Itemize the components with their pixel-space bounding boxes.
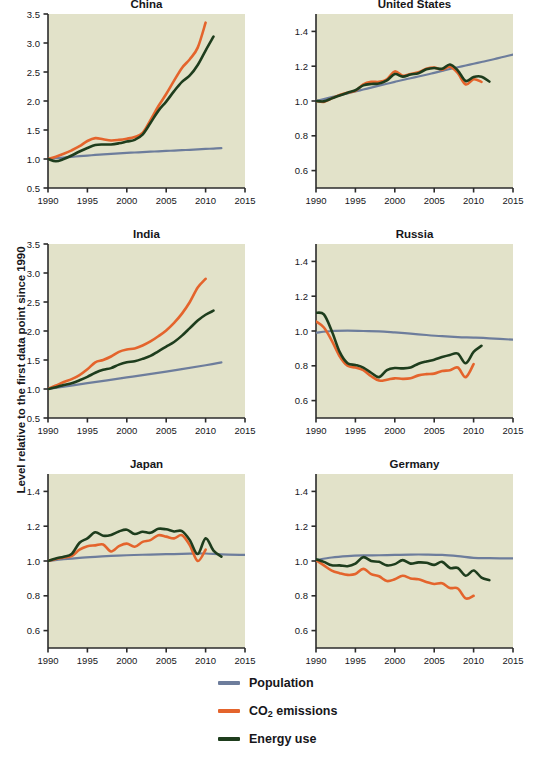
x-tick-label: 2000 xyxy=(116,655,137,666)
x-tick-label: 1995 xyxy=(345,195,366,206)
y-tick-label: 1.5 xyxy=(27,125,40,136)
legend-swatch-population-icon xyxy=(218,681,240,684)
panel-united-states: United States0.60.81.01.21.4199019952000… xyxy=(274,0,531,218)
plot-area-china: 0.51.01.52.02.53.03.51990199520002005201… xyxy=(6,0,263,218)
x-tick-label: 2015 xyxy=(502,195,523,206)
y-tick-label: 1.2 xyxy=(27,521,40,532)
panel-germany: Germany0.60.81.01.21.4199019952000200520… xyxy=(274,458,531,678)
panel-background xyxy=(48,14,245,188)
x-tick-label: 1995 xyxy=(77,195,98,206)
y-tick-label: 0.6 xyxy=(295,395,308,406)
plot-area-germany: 0.60.81.01.21.4199019952000200520102015 xyxy=(274,458,531,678)
y-tick-label: 1.2 xyxy=(295,291,308,302)
chart-legend: PopulationCO2 emissionsEnergy use xyxy=(0,676,538,762)
y-tick-label: 1.0 xyxy=(27,384,40,395)
x-tick-label: 2010 xyxy=(463,195,484,206)
y-tick-label: 1.4 xyxy=(27,486,40,497)
legend-label: Energy use xyxy=(249,732,316,746)
x-tick-label: 2000 xyxy=(116,425,137,436)
x-tick-label: 2015 xyxy=(234,655,255,666)
x-tick-label: 2005 xyxy=(424,425,445,436)
x-tick-label: 2000 xyxy=(384,655,405,666)
y-tick-label: 2.0 xyxy=(27,96,40,107)
x-tick-label: 2010 xyxy=(463,425,484,436)
x-tick-label: 2015 xyxy=(234,195,255,206)
y-tick-label: 1.5 xyxy=(27,355,40,366)
y-tick-label: 1.4 xyxy=(295,486,308,497)
y-tick-label: 1.2 xyxy=(295,521,308,532)
y-tick-label: 0.5 xyxy=(27,413,40,424)
y-tick-label: 0.8 xyxy=(295,130,308,141)
x-tick-label: 2000 xyxy=(384,195,405,206)
y-tick-label: 0.6 xyxy=(27,625,40,636)
y-tick-label: 1.0 xyxy=(295,556,308,567)
panel-background xyxy=(316,474,513,648)
x-tick-label: 2005 xyxy=(156,425,177,436)
panel-india: India0.51.01.52.02.53.03.519901995200020… xyxy=(6,228,263,448)
y-tick-label: 1.0 xyxy=(295,326,308,337)
y-tick-label: 0.8 xyxy=(295,360,308,371)
y-tick-label: 0.6 xyxy=(295,165,308,176)
legend-item-co2[interactable]: CO2 emissions xyxy=(218,704,337,718)
x-tick-label: 2000 xyxy=(116,195,137,206)
y-tick-label: 0.5 xyxy=(27,183,40,194)
panel-background xyxy=(48,244,245,418)
y-tick-label: 1.0 xyxy=(27,154,40,165)
x-tick-label: 1990 xyxy=(305,425,326,436)
x-tick-label: 2015 xyxy=(234,425,255,436)
x-tick-label: 2010 xyxy=(195,655,216,666)
plot-area-india: 0.51.01.52.02.53.03.51990199520002005201… xyxy=(6,228,263,448)
y-tick-label: 1.4 xyxy=(295,26,308,37)
y-tick-label: 1.4 xyxy=(295,256,308,267)
plot-area-japan: 0.60.81.01.21.4199019952000200520102015 xyxy=(6,458,263,678)
x-tick-label: 2010 xyxy=(195,195,216,206)
y-tick-label: 2.5 xyxy=(27,67,40,78)
y-tick-label: 3.0 xyxy=(27,268,40,279)
panel-japan: Japan0.60.81.01.21.419901995200020052010… xyxy=(6,458,263,678)
x-tick-label: 2015 xyxy=(502,655,523,666)
x-tick-label: 1995 xyxy=(345,425,366,436)
x-tick-label: 1995 xyxy=(77,655,98,666)
y-tick-label: 2.5 xyxy=(27,297,40,308)
x-tick-label: 1990 xyxy=(37,425,58,436)
panel-background xyxy=(316,14,513,188)
y-tick-label: 1.0 xyxy=(295,96,308,107)
legend-item-energy[interactable]: Energy use xyxy=(218,732,316,746)
y-tick-label: 3.5 xyxy=(27,239,40,250)
y-tick-label: 2.0 xyxy=(27,326,40,337)
plot-area-russia: 0.60.81.01.21.4199019952000200520102015 xyxy=(274,228,531,448)
x-tick-label: 1990 xyxy=(305,195,326,206)
panel-background xyxy=(48,474,245,648)
y-tick-label: 0.6 xyxy=(295,625,308,636)
y-tick-label: 0.8 xyxy=(295,590,308,601)
y-tick-label: 1.2 xyxy=(295,61,308,72)
legend-label: Population xyxy=(249,676,314,690)
panel-china: China0.51.01.52.02.53.03.519901995200020… xyxy=(6,0,263,218)
y-tick-label: 1.0 xyxy=(27,556,40,567)
legend-label-subscript: 2 xyxy=(268,709,273,719)
legend-swatch-energy-icon xyxy=(218,737,240,740)
y-tick-label: 3.0 xyxy=(27,38,40,49)
x-tick-label: 2005 xyxy=(156,195,177,206)
x-tick-label: 2010 xyxy=(463,655,484,666)
figure-small-multiples: Level relative to the first data point s… xyxy=(0,0,538,762)
x-tick-label: 2005 xyxy=(424,655,445,666)
y-tick-label: 3.5 xyxy=(27,9,40,20)
x-tick-label: 2000 xyxy=(384,425,405,436)
x-tick-label: 1995 xyxy=(77,425,98,436)
legend-item-population[interactable]: Population xyxy=(218,676,314,690)
plot-area-united-states: 0.60.81.01.21.4199019952000200520102015 xyxy=(274,0,531,218)
y-tick-label: 0.8 xyxy=(27,590,40,601)
x-tick-label: 1990 xyxy=(37,195,58,206)
x-tick-label: 2015 xyxy=(502,425,523,436)
x-tick-label: 1990 xyxy=(305,655,326,666)
x-tick-label: 1995 xyxy=(345,655,366,666)
legend-swatch-co2-icon xyxy=(218,709,240,712)
x-tick-label: 2005 xyxy=(156,655,177,666)
x-tick-label: 2010 xyxy=(195,425,216,436)
x-tick-label: 2005 xyxy=(424,195,445,206)
x-tick-label: 1990 xyxy=(37,655,58,666)
panel-russia: Russia0.60.81.01.21.41990199520002005201… xyxy=(274,228,531,448)
legend-label: CO2 emissions xyxy=(249,704,337,718)
